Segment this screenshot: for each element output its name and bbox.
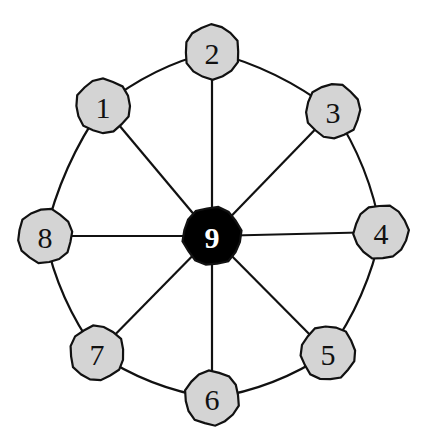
node-5: 5 <box>301 327 356 380</box>
node-label: 5 <box>321 338 336 371</box>
node-2: 2 <box>186 24 238 80</box>
node-label: 8 <box>38 221 53 254</box>
node-1: 1 <box>76 78 130 133</box>
node-label: 4 <box>374 217 389 250</box>
hub-node-label: 9 <box>205 221 220 254</box>
node-label: 3 <box>326 96 341 129</box>
wheel-graph-diagram: 123456789 <box>0 0 431 445</box>
node-4: 4 <box>353 206 409 259</box>
hub-node-9: 9 <box>183 207 242 265</box>
node-label: 6 <box>205 383 220 416</box>
node-8: 8 <box>18 209 72 263</box>
node-label: 7 <box>90 338 105 371</box>
node-label: 1 <box>96 91 111 124</box>
node-7: 7 <box>71 326 124 381</box>
node-6: 6 <box>185 370 239 425</box>
node-3: 3 <box>306 84 360 138</box>
nodes: 123456789 <box>18 24 409 426</box>
node-label: 2 <box>205 37 220 70</box>
